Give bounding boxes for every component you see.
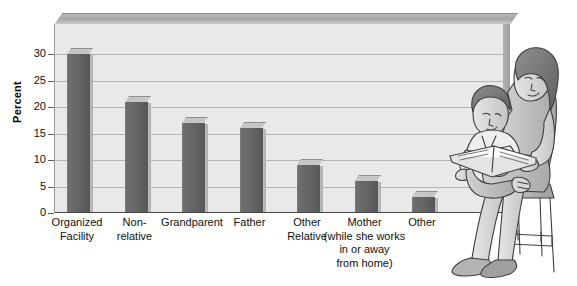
bar-top-face xyxy=(125,96,151,102)
bar xyxy=(67,48,94,213)
bar-top-face xyxy=(182,117,208,123)
bar-front-face xyxy=(297,165,320,213)
y-tick-label: 10 xyxy=(24,154,46,165)
woman-reading-to-child-illustration xyxy=(432,34,577,286)
bar-front-face xyxy=(67,54,90,213)
y-tick-mark xyxy=(48,213,54,214)
bar xyxy=(240,122,267,213)
bar-top-face xyxy=(297,159,323,165)
bar xyxy=(125,96,152,213)
bar-top-face xyxy=(355,175,381,181)
y-tick-label: 15 xyxy=(24,128,46,139)
bar-front-face xyxy=(355,181,378,213)
bar xyxy=(355,175,382,213)
bar-front-face xyxy=(125,102,148,213)
y-tick-mark xyxy=(48,160,54,161)
bar xyxy=(182,117,209,213)
y-tick-mark xyxy=(48,134,54,135)
y-tick-label: 30 xyxy=(24,48,46,59)
y-tick-label: 20 xyxy=(24,101,46,112)
y-tick-mark xyxy=(48,54,54,55)
bar xyxy=(297,159,324,213)
bar-top-face xyxy=(240,122,266,128)
bar-front-face xyxy=(182,123,205,213)
y-tick-label: 25 xyxy=(24,75,46,86)
y-tick-mark xyxy=(48,81,54,82)
y-tick-label: 5 xyxy=(24,181,46,192)
bar-top-face xyxy=(67,48,93,54)
bar-front-face xyxy=(240,128,263,213)
y-tick-mark xyxy=(48,187,54,188)
y-tick-mark xyxy=(48,107,54,108)
bar-chart-figure: Percent 051015202530 Organized FacilityN… xyxy=(0,0,577,286)
y-axis-tick-labels: 051015202530 xyxy=(22,0,46,286)
